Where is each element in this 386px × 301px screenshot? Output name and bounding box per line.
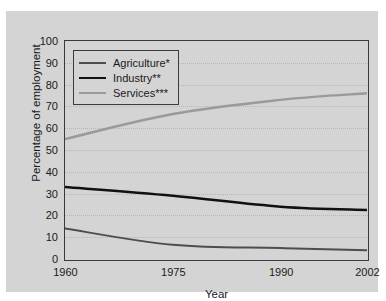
legend-item-industry: Industry** xyxy=(79,70,170,85)
series-line-industry xyxy=(65,187,367,210)
y-tick-label: 70 xyxy=(28,101,58,112)
legend-item-agriculture: Agriculture* xyxy=(79,55,170,70)
chart-figure: Percentage of employment 010203040506070… xyxy=(0,0,386,301)
x-tick-label: 1960 xyxy=(44,266,88,278)
legend-swatch-industry xyxy=(79,77,106,79)
chart-legend: Agriculture* Industry** Services*** xyxy=(73,50,179,105)
x-tick-label: 1975 xyxy=(151,266,195,278)
figure-canvas: Percentage of employment 010203040506070… xyxy=(6,11,378,292)
series-line-agriculture xyxy=(65,228,367,250)
y-tick-label: 20 xyxy=(28,210,58,221)
legend-label-agriculture: Agriculture* xyxy=(113,57,170,69)
x-tick-label: 1990 xyxy=(259,266,303,278)
legend-label-services: Services*** xyxy=(113,87,168,99)
y-tick-label: 60 xyxy=(28,123,58,134)
y-tick-label: 40 xyxy=(28,167,58,178)
legend-swatch-services xyxy=(79,92,106,94)
y-tick-label: 30 xyxy=(28,189,58,200)
y-tick-label: 100 xyxy=(28,36,58,47)
x-tick-label: 2002 xyxy=(346,266,386,278)
y-tick-label: 0 xyxy=(28,254,58,265)
legend-label-industry: Industry** xyxy=(113,72,161,84)
y-tick-label: 10 xyxy=(28,232,58,243)
y-tick-label: 90 xyxy=(28,58,58,69)
legend-swatch-agriculture xyxy=(79,62,106,64)
x-axis-title: Year xyxy=(64,288,369,300)
y-tick-label: 80 xyxy=(28,80,58,91)
legend-item-services: Services*** xyxy=(79,85,170,100)
y-tick-label: 50 xyxy=(28,145,58,156)
